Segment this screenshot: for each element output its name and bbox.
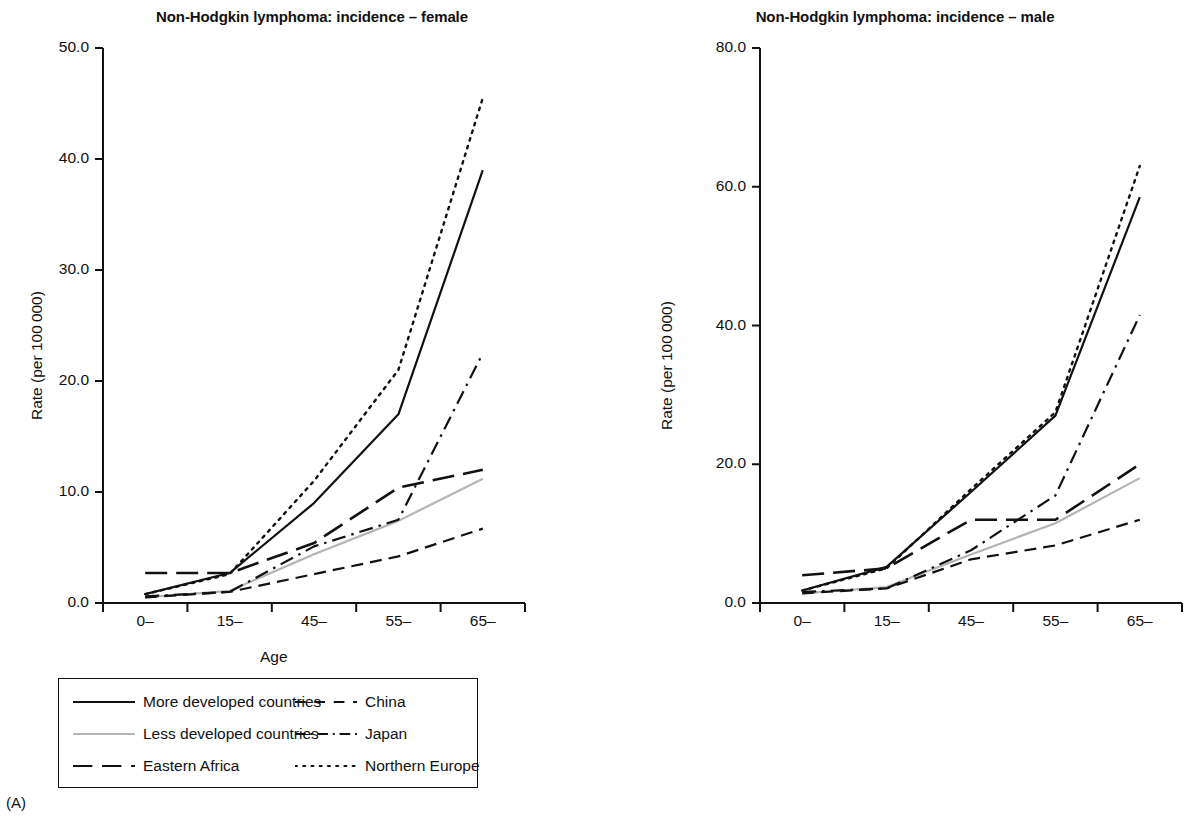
x-tick-label: 45– xyxy=(274,612,354,630)
legend-item: Japan xyxy=(295,719,407,749)
y-tick-label: 40.0 xyxy=(674,316,746,334)
y-tick-label: 10.0 xyxy=(17,482,89,500)
legend-label: Northern Europe xyxy=(365,757,480,775)
chart-panel-male: Non-Hodgkin lymphoma: incidence – male R… xyxy=(600,0,1200,824)
legend-line-sample xyxy=(295,727,357,741)
y-tick-label: 0.0 xyxy=(674,593,746,611)
series-line xyxy=(145,529,483,598)
x-tick-label: 15– xyxy=(190,612,270,630)
x-tick-label: 0– xyxy=(105,612,185,630)
legend-label: China xyxy=(365,693,406,711)
series-line xyxy=(145,98,483,594)
legend-item: Northern Europe xyxy=(295,751,480,781)
y-tick-label: 20.0 xyxy=(17,371,89,389)
x-tick-label: 0– xyxy=(762,612,842,630)
legend-label: Eastern Africa xyxy=(143,757,240,775)
legend-line-sample xyxy=(73,759,135,773)
y-tick-label: 0.0 xyxy=(17,593,89,611)
series-line xyxy=(145,479,483,598)
x-tick-label: 45– xyxy=(931,612,1011,630)
legend-label: Less developed countries xyxy=(143,725,319,743)
legend-line-sample xyxy=(295,759,357,773)
x-tick-label: 65– xyxy=(1100,612,1180,630)
plot-area-male xyxy=(600,0,1200,670)
legend-line-sample xyxy=(295,695,357,709)
legend-item: Eastern Africa xyxy=(73,751,240,781)
x-tick-label: 55– xyxy=(358,612,438,630)
y-tick-label: 30.0 xyxy=(17,260,89,278)
y-tick-label: 50.0 xyxy=(17,38,89,56)
y-tick-label: 60.0 xyxy=(674,177,746,195)
series-line xyxy=(802,197,1140,590)
plot-area-female xyxy=(0,0,600,670)
legend-female: More developed countriesLess developed c… xyxy=(58,678,478,788)
series-line xyxy=(802,520,1140,594)
legend-label: Japan xyxy=(365,725,407,743)
series-line xyxy=(802,166,1140,591)
x-tick-label: 15– xyxy=(847,612,927,630)
legend-line-sample xyxy=(73,727,135,741)
series-line xyxy=(145,353,483,596)
legend-item: More developed countries xyxy=(73,687,321,717)
legend-item: China xyxy=(295,687,406,717)
legend-line-sample xyxy=(73,695,135,709)
x-tick-label: 55– xyxy=(1015,612,1095,630)
legend-item: Less developed countries xyxy=(73,719,319,749)
x-tick-label: 65– xyxy=(443,612,523,630)
series-line xyxy=(802,315,1140,592)
y-tick-label: 20.0 xyxy=(674,454,746,472)
chart-panel-female: Non-Hodgkin lymphoma: incidence – female… xyxy=(0,0,600,824)
y-tick-label: 40.0 xyxy=(17,149,89,167)
series-line xyxy=(145,170,483,594)
series-line xyxy=(145,470,483,573)
panel-letter-a: (A) xyxy=(6,794,26,811)
y-tick-label: 80.0 xyxy=(674,38,746,56)
